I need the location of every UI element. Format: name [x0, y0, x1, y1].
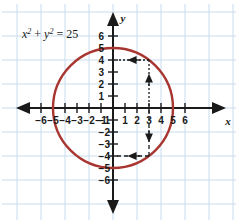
x-tick-label-3: 3 [146, 115, 152, 126]
equation-rhs: 25 [66, 27, 78, 41]
coordinate-plane-figure: −6 −5 −4 −3 −2 −1 1 2 3 4 5 6 6 5 4 3 2 … [0, 0, 237, 224]
x-tick-label--2: −2 [83, 115, 95, 126]
x-tick-label-6: 6 [182, 115, 188, 126]
x-tick-label-1: 1 [122, 115, 128, 126]
x-tick-label-5: 5 [170, 115, 176, 126]
y-tick-label--4: −4 [99, 151, 111, 162]
y-tick-label-4: 4 [98, 55, 104, 66]
x-tick-label-4: 4 [158, 115, 164, 126]
y-tick-label-2: 2 [98, 79, 104, 90]
y-tick-label-6: 6 [98, 31, 104, 42]
equation-exponent-1: 2 [27, 27, 31, 36]
equation-exponent-2: 2 [49, 27, 53, 36]
y-tick-label-1: 1 [98, 91, 104, 102]
graph-svg: −6 −5 −4 −3 −2 −1 1 2 3 4 5 6 6 5 4 3 2 … [0, 0, 237, 224]
x-tick-label--4: −4 [59, 115, 71, 126]
y-tick-label-3: 3 [98, 67, 104, 78]
x-tick-label-2: 2 [134, 115, 140, 126]
x-tick-label--5: −5 [47, 115, 59, 126]
y-axis-label: y [119, 12, 126, 24]
x-axis-label: x [224, 115, 231, 127]
x-tick-label--6: −6 [35, 115, 47, 126]
y-tick-label--6: −6 [99, 175, 111, 186]
equation-equals: = [56, 27, 63, 41]
y-tick-label--1: −1 [99, 115, 111, 126]
y-tick-label--3: −3 [99, 139, 111, 150]
equation-plus: + [34, 27, 41, 41]
x-tick-label--3: −3 [71, 115, 83, 126]
y-tick-label--5: −5 [99, 163, 111, 174]
y-tick-label--2: −2 [99, 127, 111, 138]
y-tick-label-5: 5 [98, 43, 104, 54]
